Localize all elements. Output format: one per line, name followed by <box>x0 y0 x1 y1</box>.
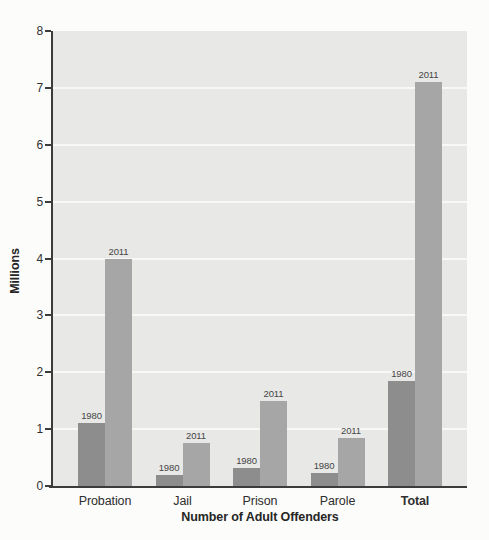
y-tick-7 <box>45 87 51 89</box>
bar-2011-prison <box>260 401 287 486</box>
bar-year-label-1980-parole: 1980 <box>307 460 341 471</box>
bar-1980-jail <box>156 475 183 486</box>
bar-chart-figure: Millions Number of Adult Offenders 19802… <box>0 0 489 540</box>
x-category-label-jail: Jail <box>143 494 223 508</box>
x-category-label-probation: Probation <box>65 494 145 508</box>
bar-1980-parole <box>311 473 338 486</box>
y-tick-0 <box>45 485 51 487</box>
bar-year-label-2011-jail: 2011 <box>179 430 213 441</box>
bar-2011-jail <box>183 443 210 486</box>
bar-year-label-2011-parole: 2011 <box>334 425 368 436</box>
bar-1980-total <box>388 381 415 486</box>
y-tick-6 <box>45 144 51 146</box>
y-tick-1 <box>45 428 51 430</box>
bar-year-label-2011-probation: 2011 <box>102 246 136 257</box>
y-tick-label-0: 0 <box>21 479 43 493</box>
bar-year-label-2011-prison: 2011 <box>257 388 291 399</box>
y-tick-label-5: 5 <box>21 195 43 209</box>
bar-year-label-1980-prison: 1980 <box>230 455 264 466</box>
bar-year-label-1980-jail: 1980 <box>152 462 186 473</box>
y-axis-title: Millions <box>8 248 22 294</box>
y-tick-label-4: 4 <box>21 252 43 266</box>
bar-year-label-1980-probation: 1980 <box>75 410 109 421</box>
x-category-label-total: Total <box>375 494 455 508</box>
y-axis-line <box>51 31 53 488</box>
bar-2011-parole <box>338 438 365 486</box>
bar-2011-probation <box>105 259 132 487</box>
y-tick-2 <box>45 371 51 373</box>
y-tick-label-1: 1 <box>21 422 43 436</box>
y-tick-8 <box>45 30 51 32</box>
bar-year-label-1980-total: 1980 <box>385 368 419 379</box>
bar-2011-total <box>415 82 442 486</box>
y-tick-label-6: 6 <box>21 138 43 152</box>
y-tick-label-3: 3 <box>21 308 43 322</box>
gridline-6 <box>53 144 467 146</box>
x-axis-line <box>49 486 467 488</box>
y-tick-4 <box>45 258 51 260</box>
x-category-label-prison: Prison <box>220 494 300 508</box>
x-category-label-parole: Parole <box>298 494 378 508</box>
y-tick-label-7: 7 <box>21 81 43 95</box>
gridline-5 <box>53 201 467 203</box>
y-tick-label-2: 2 <box>21 365 43 379</box>
x-axis-title: Number of Adult Offenders <box>53 510 467 525</box>
bar-1980-prison <box>233 468 260 486</box>
y-tick-3 <box>45 314 51 316</box>
bar-1980-probation <box>78 423 105 486</box>
gridline-7 <box>53 87 467 89</box>
y-tick-5 <box>45 201 51 203</box>
bar-year-label-2011-total: 2011 <box>412 69 446 80</box>
y-tick-label-8: 8 <box>21 24 43 38</box>
